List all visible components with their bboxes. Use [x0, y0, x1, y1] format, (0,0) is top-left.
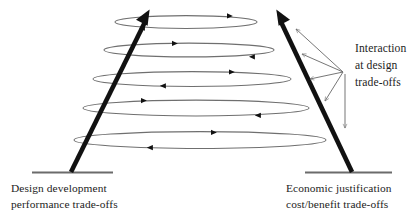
diagram-canvas: Interaction at design trade-offs Design … [0, 0, 419, 221]
annotation-line-1: Interaction [355, 42, 406, 55]
leader-line-3 [310, 72, 343, 79]
left-axis-label-line-1: Design development [11, 182, 107, 194]
loop-2 [104, 43, 320, 57]
right-axis-label-block: Economic justification cost/benefit trad… [286, 182, 392, 210]
right-axis-label-line-2: cost/benefit trade-offs [286, 198, 389, 210]
annotation-text-block: Interaction at design trade-offs [355, 42, 406, 89]
left-axis-shaft [71, 23, 145, 172]
annotation-line-2: at design [355, 59, 398, 72]
right-axis-label-line-1: Economic justification [286, 182, 392, 194]
leader-line-2 [302, 54, 343, 72]
loop-1 [115, 16, 257, 29]
loop-5 [74, 132, 326, 149]
annotation-leaders-group [296, 29, 345, 128]
loop-1-ellipse [115, 16, 257, 29]
loop-5-ellipse [74, 132, 326, 149]
left-axis-label-line-2: performance trade-offs [11, 198, 118, 210]
right-axis-arrow [276, 10, 352, 173]
trade-offs-diagram-svg: Interaction at design trade-offs Design … [0, 0, 419, 221]
right-axis-arrowhead [276, 10, 290, 26]
loop-4 [82, 100, 325, 116]
left-axis-label-block: Design development performance trade-off… [11, 182, 118, 210]
loop-4-ellipse [83, 100, 309, 116]
annotation-line-3: trade-offs [355, 76, 401, 89]
axis-arrows-group [71, 10, 352, 173]
leader-line-4 [325, 72, 343, 101]
loop-3 [93, 72, 291, 87]
right-axis-shaft [282, 23, 353, 172]
loop-3-ellipse [93, 72, 291, 87]
